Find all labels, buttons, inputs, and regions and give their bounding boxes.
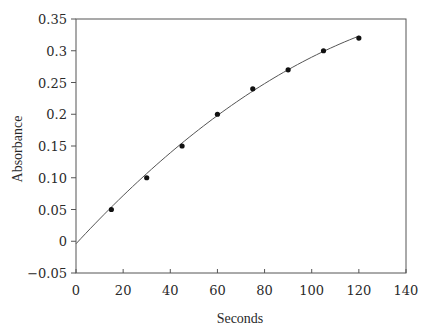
- y-tick-label: 0.2: [46, 107, 67, 122]
- data-point: [356, 35, 361, 40]
- y-tick-label: 0.15: [38, 139, 67, 154]
- data-point: [179, 143, 184, 148]
- x-tick-label: 80: [256, 283, 273, 298]
- x-tick-label: 0: [72, 283, 80, 298]
- x-tick-label: 140: [394, 283, 419, 298]
- data-point: [250, 86, 255, 91]
- data-points: [109, 35, 362, 212]
- y-axis-title: Absorbance: [10, 116, 25, 183]
- x-tick-label: 40: [162, 283, 179, 298]
- y-tick-label: 0.35: [38, 12, 67, 27]
- absorbance-chart: 020406080100120140 −0.0500.050.100.150.2…: [0, 0, 428, 335]
- x-tick-label: 20: [115, 283, 132, 298]
- data-point: [286, 67, 291, 72]
- data-point: [321, 48, 326, 53]
- data-point: [144, 175, 149, 180]
- y-tick-label: 0.3: [46, 44, 67, 59]
- x-axis-title: Seconds: [217, 311, 264, 326]
- data-point: [109, 207, 114, 212]
- y-axis-ticks: −0.0500.050.100.150.20.250.30.35: [27, 12, 76, 281]
- x-tick-label: 60: [209, 283, 226, 298]
- plot-frame: [76, 19, 406, 273]
- plot-border: [76, 19, 406, 273]
- y-tick-label: 0: [59, 234, 67, 249]
- y-tick-label: −0.05: [27, 266, 67, 281]
- y-tick-label: 0.05: [38, 203, 67, 218]
- y-tick-label: 0.25: [38, 76, 67, 91]
- data-point: [215, 112, 220, 117]
- y-tick-label: 0.10: [38, 171, 67, 186]
- fitted-curve: [76, 36, 359, 244]
- x-tick-label: 100: [299, 283, 324, 298]
- x-tick-label: 120: [346, 283, 371, 298]
